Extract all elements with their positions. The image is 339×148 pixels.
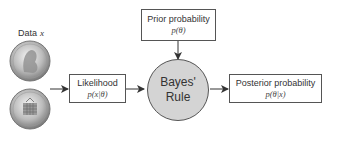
posterior-box: Posterior probability p(θ|x): [229, 74, 322, 103]
posterior-formula: p(θ|x): [230, 89, 321, 99]
bayes-rule-line2: Rule: [148, 90, 208, 105]
coin-tails-icon: [10, 89, 50, 129]
likelihood-formula: p(x|θ): [70, 89, 125, 99]
data-label-text: Data: [18, 28, 37, 38]
prior-label: Prior probability: [142, 14, 215, 25]
likelihood-label: Likelihood: [70, 78, 125, 89]
coin-heads-icon: [10, 41, 50, 81]
posterior-label: Posterior probability: [230, 78, 321, 89]
bayes-rule-diagram: Datax Likelihood p(x|θ) Prior probabilit…: [0, 0, 339, 148]
data-var: x: [40, 28, 44, 38]
prior-formula: p(θ): [142, 25, 215, 35]
data-label: Datax: [18, 28, 44, 38]
prior-box: Prior probability p(θ): [141, 9, 216, 41]
bayes-rule-node: Bayes' Rule: [147, 59, 209, 121]
likelihood-box: Likelihood p(x|θ): [69, 74, 126, 103]
bayes-rule-line1: Bayes': [148, 75, 208, 90]
